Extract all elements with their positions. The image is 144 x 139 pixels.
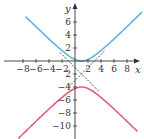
x-tick-label: 4: [98, 64, 104, 74]
y-tick-label: 2: [65, 69, 71, 79]
y-tick-label: −10: [52, 121, 71, 131]
y-tick-label: −6: [58, 95, 72, 105]
y-axis-label: y: [64, 3, 71, 14]
hyperbola-curves: [18, 12, 142, 138]
x-axis-label: x: [135, 64, 141, 75]
y-tick-label: 6: [65, 17, 71, 27]
x-tick-label: −6: [29, 64, 43, 74]
y-axis-arrow-icon: [73, 3, 78, 9]
y-tick-label: −4: [58, 82, 72, 92]
hyperbola-plot: −8−6−4−224686422−4−6−8−10 x y: [0, 0, 144, 139]
x-tick-label: 8: [124, 64, 130, 74]
x-tick-label: −4: [42, 64, 56, 74]
lower-branch-curve: [18, 87, 137, 138]
ticks: −8−6−4−224686422−4−6−8−10: [16, 17, 130, 131]
upper-branch-curve: [26, 12, 142, 61]
x-tick-label: 6: [111, 64, 117, 74]
y-tick-label: −8: [58, 108, 72, 118]
x-tick-label: 2: [85, 64, 91, 74]
x-axis-arrow-icon: [134, 59, 140, 64]
x-tick-label: −8: [16, 64, 30, 74]
y-tick-label: 2: [65, 43, 71, 53]
y-tick-label: 4: [65, 30, 71, 40]
